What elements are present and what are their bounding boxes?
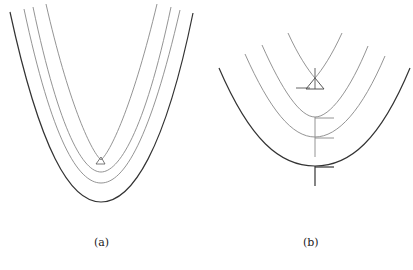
curve-a-outer (10, 12, 193, 202)
triangle-marker-a (96, 157, 105, 164)
caption-b: (b) (303, 236, 319, 249)
curve-a-inner (46, 4, 157, 160)
curve-a-3 (24, 9, 180, 183)
panel-b (219, 33, 410, 186)
panel-a (10, 4, 193, 202)
caption-a: (a) (94, 236, 109, 249)
figure-canvas (0, 0, 413, 270)
